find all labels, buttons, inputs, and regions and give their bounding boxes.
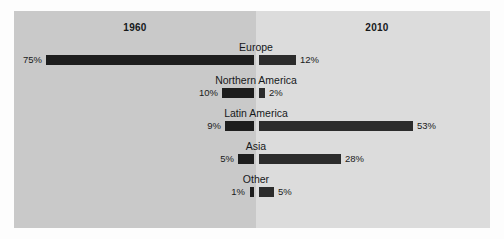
bar-1960-latin-america <box>225 121 254 131</box>
bar-2010-northern-america <box>259 88 265 98</box>
table-row: Northern America 10% 2% <box>0 74 504 106</box>
value-2010-other: 5% <box>278 186 318 197</box>
value-1960-northern-america: 10% <box>184 87 218 98</box>
value-2010-europe: 12% <box>300 54 340 65</box>
bar-line-europe: 75% 12% <box>0 55 504 66</box>
value-1960-europe: 75% <box>8 54 42 65</box>
bar-line-latin-america: 9% 53% <box>0 121 504 132</box>
bar-2010-europe <box>259 55 296 65</box>
bar-1960-northern-america <box>222 88 254 98</box>
value-1960-other: 1% <box>214 186 245 197</box>
bar-1960-asia <box>238 154 254 164</box>
bar-line-asia: 5% 28% <box>0 154 504 165</box>
diverging-bar-chart: 1960 2010 Europe 75% 12% Northern Americ… <box>0 0 504 239</box>
value-1960-latin-america: 9% <box>190 120 221 131</box>
bar-line-northern-america: 10% 2% <box>0 88 504 99</box>
value-2010-northern-america: 2% <box>269 87 309 98</box>
bar-2010-latin-america <box>259 121 413 131</box>
bar-1960-europe <box>46 55 254 65</box>
bar-rows: Europe 75% 12% Northern America 10% 2% L… <box>0 0 504 239</box>
value-1960-asia: 5% <box>203 153 234 164</box>
bar-2010-asia <box>259 154 341 164</box>
table-row: Asia 5% 28% <box>0 140 504 172</box>
bar-1960-other <box>250 187 254 197</box>
category-label-latin-america: Latin America <box>156 107 356 119</box>
bar-line-other: 1% 5% <box>0 187 504 198</box>
category-label-northern-america: Northern America <box>156 74 356 86</box>
category-label-europe: Europe <box>156 41 356 53</box>
category-label-asia: Asia <box>156 140 356 152</box>
table-row: Europe 75% 12% <box>0 41 504 73</box>
value-2010-latin-america: 53% <box>417 120 457 131</box>
table-row: Latin America 9% 53% <box>0 107 504 139</box>
category-label-other: Other <box>156 173 356 185</box>
value-2010-asia: 28% <box>345 153 385 164</box>
table-row: Other 1% 5% <box>0 173 504 205</box>
bar-2010-other <box>259 187 274 197</box>
